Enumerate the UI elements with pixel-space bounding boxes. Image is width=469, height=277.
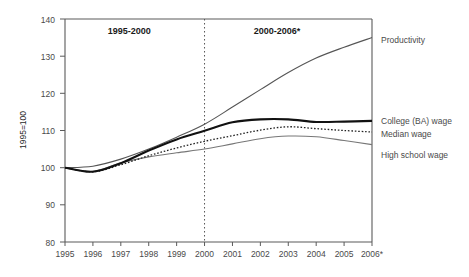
series-line-median-wage (65, 127, 372, 172)
y-tick-label-120: 120 (41, 89, 55, 99)
period-label-right: 2000-2006* (254, 26, 301, 36)
x-tick-label-2000: 2000 (195, 249, 214, 259)
y-tick-label-140: 140 (41, 15, 55, 25)
y-tick-label-130: 130 (41, 52, 55, 62)
x-tick-label-2006star: 2006* (361, 249, 384, 259)
y-tick-marks (60, 19, 65, 242)
legend-label-high-school-wage: High school wage (381, 150, 448, 160)
series-line-productivity (65, 38, 372, 168)
legend-label-college-ba-wage: College (BA) wage (381, 116, 452, 126)
x-tick-label-2003: 2003 (279, 249, 298, 259)
chart-container: 140 130 120 110 100 90 80 1995=100 19951… (0, 0, 469, 277)
x-tick-label-2002: 2002 (251, 249, 270, 259)
y-tick-label-110: 110 (41, 126, 55, 136)
x-tick-label-2004: 2004 (307, 249, 326, 259)
y-tick-label-100: 100 (41, 163, 55, 173)
y-axis-title: 1995=100 (18, 111, 28, 149)
x-tick-marks (65, 242, 372, 246)
series-line-college-ba-wage (65, 119, 372, 172)
x-tick-labels: 1995199619971998199920002001200220032004… (56, 249, 384, 259)
legend-label-median-wage: Median wage (381, 129, 432, 139)
x-tick-label-2001: 2001 (223, 249, 242, 259)
y-tick-label-80: 80 (46, 238, 56, 248)
x-tick-label-1995: 1995 (56, 249, 75, 259)
y-tick-label-90: 90 (46, 200, 56, 210)
x-tick-label-1998: 1998 (139, 249, 158, 259)
x-tick-label-1996: 1996 (83, 249, 102, 259)
x-tick-label-2005: 2005 (335, 249, 354, 259)
legend-label-productivity: Productivity (381, 35, 426, 45)
x-tick-label-1997: 1997 (111, 249, 130, 259)
line-chart: 140 130 120 110 100 90 80 1995=100 19951… (0, 0, 469, 277)
x-tick-label-1999: 1999 (167, 249, 186, 259)
period-label-left: 1995-2000 (108, 26, 151, 36)
